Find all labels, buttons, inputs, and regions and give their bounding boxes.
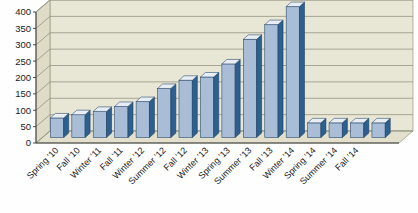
bar-front-face — [286, 7, 299, 138]
bar-group — [286, 2, 304, 138]
bar-group — [115, 102, 133, 138]
y-axis-tick-label: 400 — [15, 6, 31, 17]
bar-side-face — [149, 97, 154, 138]
bar-group — [350, 118, 368, 137]
bar-side-face — [299, 2, 304, 138]
bar-group — [200, 73, 218, 138]
bar-group — [50, 113, 68, 137]
bar-front-face — [115, 106, 128, 137]
bar-front-face — [222, 64, 235, 138]
bar-group — [329, 118, 347, 137]
bar-chart: 050100150200250300350400Spring '10Fall '… — [0, 0, 418, 213]
bar-front-face — [308, 123, 321, 138]
bar-group — [222, 59, 240, 137]
bar-group — [158, 84, 176, 138]
bar-front-face — [179, 80, 192, 137]
y-axis-tick-label: 200 — [15, 72, 31, 83]
bar-front-face — [265, 25, 278, 138]
y-axis-tick-label: 300 — [15, 39, 31, 50]
bar-side-face — [235, 59, 240, 137]
y-axis-tick-label: 350 — [15, 23, 31, 34]
bar-side-face — [192, 76, 197, 138]
y-axis-tick-label: 0 — [26, 137, 31, 148]
bar-front-face — [243, 39, 256, 137]
bar-group — [243, 35, 261, 138]
bar-front-face — [200, 77, 213, 138]
bar-group — [179, 76, 197, 138]
bar-side-face — [257, 35, 262, 138]
bar-side-face — [214, 73, 219, 138]
bar-front-face — [350, 123, 363, 138]
y-axis-tick-label: 250 — [15, 56, 31, 67]
bar-side-face — [128, 102, 133, 138]
bar-front-face — [93, 111, 106, 137]
bar-front-face — [136, 102, 149, 138]
x-axis-tick-label: Spring '10 — [25, 145, 61, 181]
bar-group — [136, 97, 154, 138]
x-axis-tick-label: Fall '14 — [333, 145, 360, 172]
bar-group — [372, 118, 390, 137]
y-axis-tick-label: 50 — [20, 121, 31, 132]
bar-group — [72, 110, 90, 137]
bar-side-face — [278, 20, 283, 137]
y-axis-tick-label: 100 — [15, 105, 31, 116]
bar-front-face — [158, 88, 171, 137]
bar-group — [308, 118, 326, 137]
bar-group — [265, 20, 283, 137]
chart-canvas: 050100150200250300350400Spring '10Fall '… — [0, 0, 418, 213]
bar-front-face — [329, 123, 342, 138]
bar-front-face — [50, 118, 63, 138]
bar-front-face — [72, 115, 85, 138]
bar-front-face — [372, 123, 385, 138]
bar-side-face — [171, 84, 176, 138]
y-axis-tick-label: 150 — [15, 88, 31, 99]
bar-group — [93, 107, 111, 138]
bar-side-face — [107, 107, 112, 138]
